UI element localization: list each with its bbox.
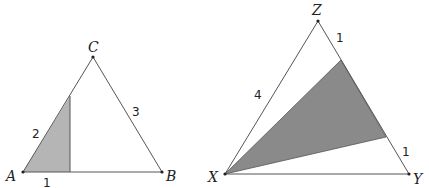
vertex-x-label: X <box>207 169 219 185</box>
left-triangle-abc: A B C 2 3 1 <box>4 39 176 188</box>
vertex-c-dot <box>91 55 94 58</box>
side-label-ab: 1 <box>43 176 51 188</box>
vertex-a-label: A <box>4 168 16 184</box>
side-label-xz: 4 <box>254 88 262 102</box>
vertex-b-dot <box>160 170 163 173</box>
vertex-y-label: Y <box>413 171 424 187</box>
geometry-figure: A B C 2 3 1 X Y Z 4 1 1 <box>0 0 429 188</box>
vertex-c-label: C <box>88 39 99 55</box>
right-shaded-triangle <box>225 60 386 174</box>
side-label-ac: 2 <box>32 127 40 141</box>
side-label-y-segment: 1 <box>402 145 410 159</box>
vertex-z-dot <box>316 19 319 22</box>
vertex-b-label: B <box>165 168 176 184</box>
vertex-z-label: Z <box>311 2 322 18</box>
vertex-y-dot <box>407 172 410 175</box>
vertex-x-dot <box>223 172 226 175</box>
right-triangle-xyz: X Y Z 4 1 1 <box>207 2 424 187</box>
vertex-a-dot <box>21 170 24 173</box>
side-label-cb: 3 <box>132 105 140 119</box>
side-label-z-segment: 1 <box>336 31 344 45</box>
